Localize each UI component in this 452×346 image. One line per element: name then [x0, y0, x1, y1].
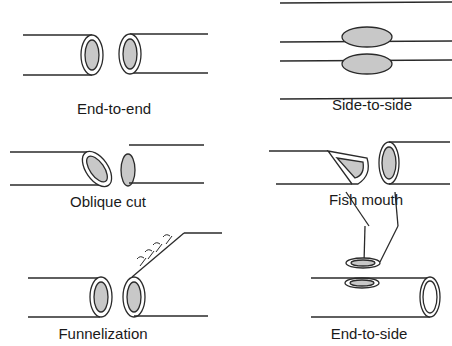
end-to-side-figure [311, 192, 440, 317]
fish-mouth-figure [269, 142, 450, 184]
label-side-to-side: Side-to-side [332, 96, 412, 113]
oblique-cut-figure [10, 145, 204, 192]
suture-marks [137, 235, 172, 266]
funnelization-figure [28, 233, 222, 317]
label-end-to-end: End-to-end [77, 100, 151, 117]
end-to-end-figure [23, 34, 208, 75]
label-end-to-side: End-to-side [331, 325, 408, 342]
side-to-side-figure [280, 2, 452, 99]
label-fish-mouth: Fish mouth [329, 191, 403, 208]
anastomosis-diagram [0, 0, 452, 346]
label-funnelization: Funnelization [58, 325, 147, 342]
label-oblique-cut: Oblique cut [70, 193, 146, 210]
